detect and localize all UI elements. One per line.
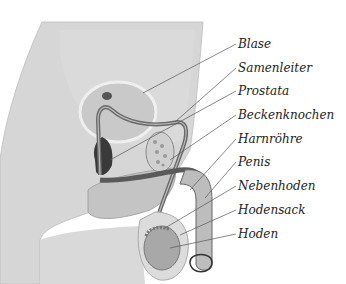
bladder-opening (102, 92, 112, 100)
label-penis: Penis (238, 155, 270, 169)
label-hoden: Hoden (238, 227, 278, 241)
label-hodensack: Hodensack (238, 203, 306, 217)
label-harnroehre: Harnröhre (238, 132, 303, 146)
leader-penis (205, 162, 236, 198)
thigh (40, 226, 145, 284)
leader-harnroehre (190, 139, 236, 190)
bladder (80, 82, 156, 142)
label-beckenknochen: Beckenknochen (238, 108, 334, 122)
label-blase: Blase (238, 37, 271, 51)
label-nebenhoden: Nebenhoden (238, 179, 316, 193)
label-samenleiter: Samenleiter (238, 61, 312, 75)
label-prostata: Prostata (238, 84, 289, 98)
